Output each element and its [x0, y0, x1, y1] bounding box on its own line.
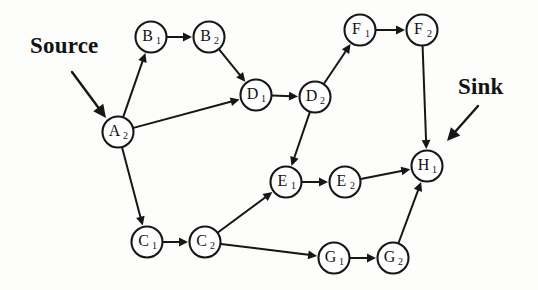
edge-line [122, 147, 141, 219]
node-G1[interactable]: G1 [319, 243, 350, 274]
node-subscript-C1: 1 [152, 240, 157, 251]
source-label: Source [30, 33, 99, 59]
node-C2[interactable]: C2 [190, 227, 221, 258]
node-letter-B2: B [200, 27, 211, 44]
node-letter-G2: G [384, 248, 396, 265]
source-arrowhead [93, 104, 106, 118]
sink-label: Sink [458, 74, 504, 100]
edge-arrowhead [230, 97, 240, 105]
node-subscript-C2: 2 [210, 240, 215, 251]
node-subscript-E2: 2 [350, 180, 355, 191]
node-subscript-G2: 2 [398, 256, 403, 267]
edge-arrowhead [319, 178, 328, 187]
edge-A2-to-C1 [122, 147, 145, 225]
node-subscript-E1: 1 [291, 180, 296, 191]
edge-arrowhead [342, 44, 351, 54]
node-F1[interactable]: F1 [345, 15, 376, 46]
edge-E1-to-E2 [302, 178, 328, 187]
edge-line [294, 112, 310, 160]
edge-C2-to-E1 [218, 192, 272, 232]
node-subscript-A2: 2 [123, 130, 128, 141]
edge-arrowhead [396, 26, 405, 35]
source-arrow-line [72, 72, 101, 112]
node-letter-B1: B [142, 27, 153, 44]
node-letter-G1: G [325, 248, 337, 265]
edge-line [361, 171, 404, 179]
node-B1[interactable]: B1 [136, 22, 167, 53]
node-letter-F2: F [414, 20, 423, 37]
node-subscript-H1: 1 [432, 164, 437, 175]
edge-arrowhead [308, 250, 317, 259]
edge-E2-to-H1 [361, 167, 411, 179]
node-subscript-B1: 1 [156, 35, 161, 46]
edge-line [324, 50, 347, 84]
edge-A2-to-B1 [123, 53, 146, 117]
node-H1[interactable]: H1 [412, 151, 443, 182]
edge-line [219, 49, 241, 76]
node-letter-E1: E [278, 172, 288, 189]
edge-arrowhead [262, 192, 272, 201]
node-F2[interactable]: F2 [407, 15, 438, 46]
node-subscript-F1: 1 [365, 28, 370, 39]
edge-arrowhead [422, 140, 431, 149]
edge-D2-to-E1 [290, 112, 310, 166]
node-E2[interactable]: E2 [330, 167, 361, 198]
edge-arrowhead [136, 216, 145, 226]
node-subscript-D2: 2 [320, 95, 325, 106]
nodes-layer: A2B1B2C1C2D1D2E1E2F1F2G1G2H1 [103, 15, 443, 274]
diagram-canvas: A2B1B2C1C2D1D2E1E2F1F2G1G2H1 SourceSink [0, 0, 538, 290]
edge-arrowhead [401, 167, 411, 176]
edge-arrowhead [138, 53, 146, 63]
edge-line [272, 96, 292, 97]
edge-arrowhead [367, 254, 376, 263]
edge-line [133, 101, 233, 128]
node-letter-D2: D [306, 87, 318, 104]
source-annotation-arrow [72, 72, 106, 118]
edge-arrowhead [289, 92, 298, 101]
node-subscript-F2: 2 [427, 28, 432, 39]
node-letter-A2: A [109, 122, 121, 139]
edge-D1-to-D2 [272, 92, 298, 101]
edge-B2-to-D1 [219, 49, 245, 81]
node-B2[interactable]: B2 [194, 22, 225, 53]
edge-line [218, 196, 267, 232]
edge-line [399, 188, 419, 243]
node-letter-D1: D [247, 85, 259, 102]
node-D2[interactable]: D2 [300, 82, 331, 113]
edge-D2-to-F1 [324, 44, 351, 84]
edge-arrowhead [290, 156, 298, 166]
edge-A2-to-D1 [133, 97, 239, 127]
node-letter-C2: C [196, 232, 207, 249]
node-letter-H1: H [418, 156, 430, 173]
edge-B1-to-B2 [167, 33, 192, 42]
edge-C2-to-G1 [221, 244, 317, 259]
edge-arrowhead [179, 238, 188, 247]
edge-F1-to-F2 [376, 26, 405, 35]
node-A2[interactable]: A2 [103, 117, 134, 148]
edges-layer [122, 26, 430, 263]
sink-annotation-arrow [447, 106, 478, 141]
edge-line [221, 244, 311, 255]
edge-F2-to-H1 [422, 46, 431, 149]
node-subscript-G1: 1 [339, 256, 344, 267]
node-E1[interactable]: E1 [271, 167, 302, 198]
edge-C1-to-C2 [163, 238, 188, 247]
node-D1[interactable]: D1 [241, 80, 272, 111]
node-letter-F1: F [352, 20, 361, 37]
edge-G2-to-H1 [399, 182, 423, 243]
node-G2[interactable]: G2 [378, 243, 409, 274]
edge-line [123, 59, 143, 117]
edge-arrowhead [183, 33, 192, 42]
sink-arrow-line [452, 106, 478, 135]
node-subscript-D1: 1 [261, 93, 266, 104]
node-C1[interactable]: C1 [132, 227, 163, 258]
edge-G1-to-G2 [350, 254, 376, 263]
edge-line [423, 46, 427, 143]
node-subscript-B2: 2 [214, 35, 219, 46]
node-letter-E2: E [337, 172, 347, 189]
node-letter-C1: C [138, 232, 149, 249]
